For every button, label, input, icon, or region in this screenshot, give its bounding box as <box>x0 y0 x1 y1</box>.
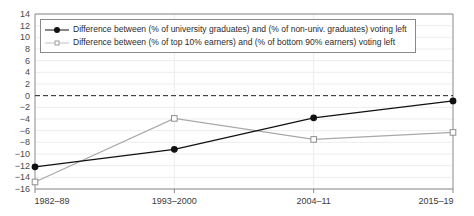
x-axis-tick-label: 2004–11 <box>296 197 330 206</box>
legend-label-0: Difference between (% of university grad… <box>73 25 407 34</box>
data-point-series-2 <box>450 130 456 136</box>
data-point-series-2 <box>172 116 178 122</box>
data-point-series-2 <box>32 179 38 185</box>
series-line-1 <box>35 101 453 167</box>
chart-legend: Difference between (% of university grad… <box>40 19 416 53</box>
data-point-series-1 <box>310 114 317 121</box>
legend-item-0: Difference between (% of university grad… <box>45 23 410 36</box>
data-point-series-1 <box>32 163 39 170</box>
x-axis-tick-label: 1993–2000 <box>152 197 197 206</box>
data-point-series-1 <box>450 98 457 105</box>
data-point-series-2 <box>311 137 317 143</box>
series-line-2 <box>35 118 453 182</box>
legend-marker-open-square-icon <box>45 37 69 48</box>
chart-container: 14121086420−2−4−6−8−10−12−14−16 1982–891… <box>0 0 474 216</box>
x-axis-tick-label: 2015–19 <box>418 197 453 206</box>
legend-marker-filled-circle-icon <box>45 24 69 35</box>
data-point-series-1 <box>171 146 178 153</box>
x-axis-tick-label: 1982–89 <box>34 197 69 206</box>
legend-item-1: Difference between (% of top 10% earners… <box>45 36 410 49</box>
legend-label-1: Difference between (% of top 10% earners… <box>73 38 395 47</box>
